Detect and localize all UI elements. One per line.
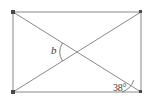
vertex-marker-top-right bbox=[139, 10, 142, 13]
geometry-figure: b 38° bbox=[0, 0, 153, 103]
vertex-marker-top-left bbox=[11, 10, 15, 14]
angle-arc-b bbox=[60, 43, 63, 61]
vertex-marker-bottom-left bbox=[11, 90, 15, 94]
figure-canvas bbox=[0, 0, 153, 103]
vertex-marker-bottom-right bbox=[139, 90, 142, 93]
